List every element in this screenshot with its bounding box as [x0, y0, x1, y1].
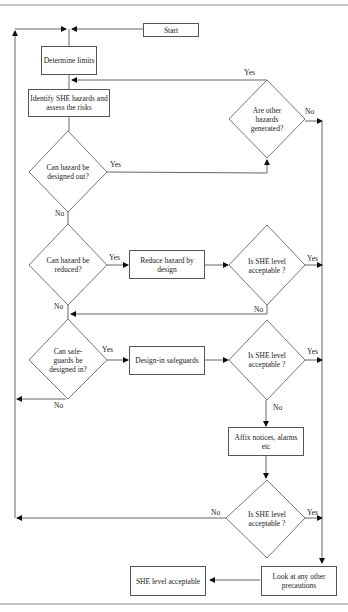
reduce-by-design-node: Reduce hazard by design [129, 250, 205, 279]
designed-out-text: Can hazard be designed out? [46, 148, 90, 196]
edge-label-no: No [54, 302, 63, 311]
acceptable-2-text: Is SHE level acceptable ? [245, 338, 289, 382]
determine-limits-node: Determine limits [41, 46, 97, 75]
edge-label-yes: Yes [307, 508, 318, 517]
edge-label-no: No [273, 403, 282, 412]
edge-label-yes: Yes [102, 345, 113, 354]
acceptable-3-text: Is SHE level acceptable ? [245, 497, 289, 541]
identify-hazards-node: Identify SHE hazards and assess the risk… [28, 89, 110, 117]
edge-label-yes: Yes [110, 160, 121, 169]
reduced-text: Can hazard be reduced? [46, 245, 90, 285]
edge-label-no: No [254, 305, 263, 314]
acceptable-1-text: Is SHE level acceptable ? [245, 244, 289, 288]
start-node: Start [143, 23, 199, 37]
edge-label-yes: Yes [307, 254, 318, 263]
edge-label-no: No [305, 107, 314, 116]
edge-label-no: No [55, 209, 64, 218]
edge-label-no: No [54, 401, 63, 410]
edge-label-no: No [211, 508, 220, 517]
safeguards-text: Can safe-guards be designed in? [46, 338, 90, 382]
edge-label-yes: Yes [109, 253, 120, 262]
edge-label-yes: Yes [307, 347, 318, 356]
she-level-acceptable-node: SHE level acceptable [130, 566, 206, 596]
affix-notices-node: Affix notices, alarms etc [228, 427, 304, 456]
design-in-safeguards-node: Design-in safeguards [129, 346, 205, 375]
other-hazards-text: Are other hazards generated? [242, 100, 292, 138]
edge-label-yes: Yes [244, 68, 255, 77]
other-precautions-node: Look at any other precautions [261, 566, 337, 596]
